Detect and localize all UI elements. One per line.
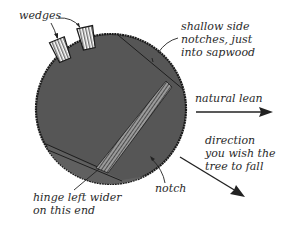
wedges-leader-right — [58, 18, 80, 27]
side-notch-leader — [158, 38, 178, 53]
natural-lean-arrow — [196, 107, 273, 117]
notch-label: notch — [155, 182, 186, 195]
side-notches-label: shallow side notches, just into sapwood — [181, 20, 255, 59]
wedges-leader-left-arrowhead — [54, 33, 58, 39]
fall-direction-label: direction you wish the tree to fall — [205, 134, 276, 173]
wedges-label: wedges — [19, 9, 61, 22]
natural-lean-label: natural lean — [195, 92, 263, 105]
hinge-label: hinge left wider on this end — [33, 191, 122, 217]
